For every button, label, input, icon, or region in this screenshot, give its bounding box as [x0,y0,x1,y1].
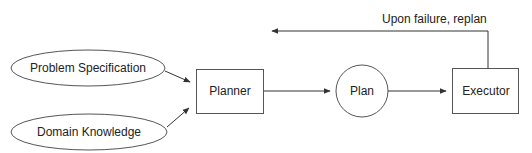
spec-to-planner-arrow [165,71,190,82]
domain-knowledge-node: Domain Knowledge [11,114,167,150]
planner-node: Planner [197,70,264,114]
domain-knowledge-label: Domain Knowledge [37,125,141,139]
replan-feedback-label: Upon failure, replan [382,12,487,26]
problem-specification-label: Problem Specification [30,61,146,75]
planner-label: Planner [209,84,250,98]
plan-label: Plan [350,84,374,98]
knowledge-to-planner-arrow [167,108,189,127]
plan-node: Plan [336,65,388,117]
executor-label: Executor [462,84,509,98]
problem-specification-node: Problem Specification [11,50,165,86]
executor-node: Executor [453,69,519,114]
replan-feedback-arrow [272,31,488,68]
planning-diagram: Problem Specification Domain Knowledge P… [0,0,532,153]
